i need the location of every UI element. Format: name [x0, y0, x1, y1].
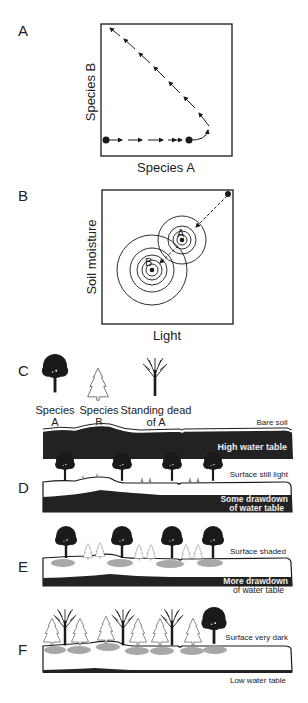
point-label-b: B [145, 256, 152, 268]
succession-diagram: A Species A Species B B [0, 0, 308, 703]
optimum-b [150, 268, 155, 273]
surface-note-d: Surface still light [230, 470, 289, 479]
species-b-tree-icon [184, 618, 201, 645]
water-table-note-c: High water table [217, 442, 287, 452]
panel-e: E Surface shaded More drawdown of water … [18, 526, 292, 595]
sapling-icon [197, 477, 200, 482]
panel-f: F Surface very dark Low water table [18, 607, 292, 685]
panel-label-c: C [18, 362, 29, 379]
species-a-tree-icon [162, 452, 182, 481]
sapling-icon [149, 477, 152, 482]
panel-a: A Species A Species B [18, 22, 232, 175]
sapling-icon [141, 477, 144, 482]
species-a-tree-icon [55, 526, 77, 558]
water-note-e-2: of water table [233, 585, 284, 595]
species-b-tree-icon [88, 368, 109, 400]
panel-d: D Surface still light Some drawdown of w… [18, 452, 292, 513]
panel-b: B A B Light Soil moisture [18, 187, 233, 343]
water-note-d-2: of water table [229, 503, 284, 513]
legend-dead-line2: of A [147, 416, 167, 428]
legend-species-a-line2: A [51, 416, 59, 428]
species-b-tree-icon [193, 545, 203, 560]
sapling-icon [189, 477, 192, 482]
species-a-tree-icon [111, 526, 133, 558]
panel-label-b: B [18, 187, 28, 204]
legend-species-b-line1: Species [79, 404, 119, 416]
start-point-b [225, 191, 231, 197]
species-b-tree-icon [146, 545, 156, 560]
point-label-a: A [177, 227, 185, 239]
bare-soil-note: Bare soil [256, 418, 287, 427]
surface-note-e: Surface shaded [230, 547, 286, 556]
plot-frame-b [102, 190, 233, 324]
species-b-tree-icon [95, 543, 105, 558]
species-b-tree-icon [83, 544, 93, 559]
panel-label-d: D [18, 479, 29, 496]
species-a-tree-icon [161, 526, 183, 558]
y-axis-label-b: Soil moisture [84, 219, 99, 294]
y-axis-label-a: Species B [83, 63, 98, 122]
panel-label-e: E [18, 558, 28, 575]
panel-label-f: F [18, 641, 27, 658]
species-a-tree-icon [55, 452, 75, 481]
sapling-icon [82, 475, 85, 480]
species-b-tree-icon [134, 545, 144, 560]
x-axis-label-a: Species A [137, 160, 195, 175]
plot-frame-a [101, 24, 232, 156]
species-b-tree-icon [97, 616, 114, 643]
species-a-tree-icon [203, 452, 223, 481]
species-a-tree-icon [202, 526, 224, 558]
species-b-tree-icon [151, 618, 168, 645]
legend-dead-line1: Standing dead [121, 404, 192, 416]
species-b-tree-icon [181, 545, 191, 560]
x-axis-label-b: Light [153, 328, 182, 343]
species-a-tree-icon [112, 452, 132, 481]
water-note-f: Low water table [230, 676, 287, 685]
species-a-tree-icon [201, 607, 226, 644]
surface-note-f: Surface very dark [225, 633, 289, 642]
panel-c: C Species A Species B Standing dead of A… [18, 354, 293, 459]
species-b-tree-icon [43, 618, 60, 645]
standing-dead-tree-icon [143, 358, 167, 396]
species-b-tree-icon [129, 618, 146, 645]
species-b-tree-icon [71, 618, 88, 645]
species-a-tree-icon [42, 354, 68, 392]
panel-label-a: A [18, 22, 28, 39]
legend-species-a-line1: Species [35, 404, 75, 416]
sapling-icon [96, 473, 99, 478]
